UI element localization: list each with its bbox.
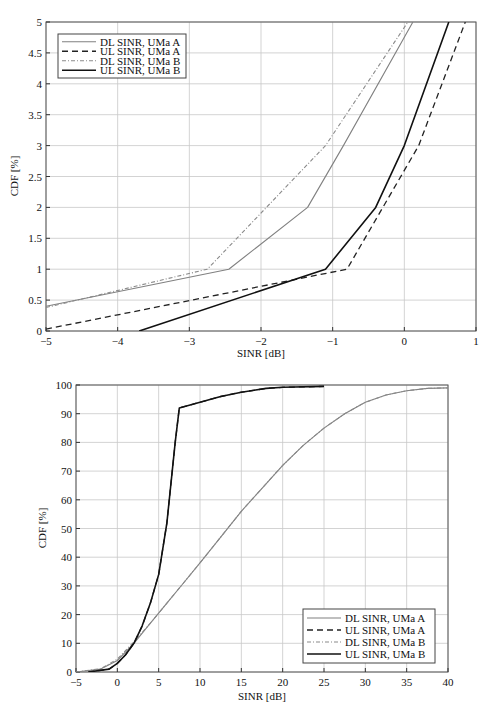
bottom-cdf-chart: −505101520253035400102030405060708090100… — [36, 379, 454, 702]
x-axis-label: SINR [dB] — [237, 347, 285, 359]
x-tick-label: 25 — [319, 676, 331, 688]
legend-label: UL SINR, UMa A — [345, 624, 425, 636]
x-tick-label: 15 — [236, 676, 248, 688]
y-tick-label: 2 — [37, 201, 43, 213]
legend: DL SINR, UMa AUL SINR, UMa ADL SINR, UMa… — [303, 609, 435, 663]
series-line-ul-sinr-uma-b — [88, 386, 324, 672]
y-tick-label: 1 — [37, 263, 43, 275]
y-tick-label: 10 — [61, 637, 73, 649]
y-tick-label: 50 — [61, 523, 73, 535]
x-tick-label: −2 — [255, 335, 267, 347]
x-tick-label: 0 — [402, 335, 408, 347]
y-tick-label: 70 — [61, 465, 73, 477]
y-tick-label: 30 — [61, 580, 73, 592]
y-tick-label: 1.5 — [28, 232, 42, 244]
legend-label: DL SINR, UMa B — [345, 636, 425, 648]
y-axis-label: CDF [%] — [8, 156, 20, 197]
series-line-ul-sinr-uma-a — [88, 386, 324, 672]
y-tick-label: 20 — [61, 609, 73, 621]
y-tick-label: 100 — [56, 379, 73, 391]
y-tick-label: 90 — [61, 408, 73, 420]
y-tick-label: 3.5 — [28, 109, 42, 121]
y-axis-label: CDF [%] — [36, 508, 48, 549]
x-tick-label: −1 — [327, 335, 339, 347]
x-tick-label: 35 — [401, 676, 413, 688]
x-tick-label: 30 — [360, 676, 372, 688]
y-tick-label: 2.5 — [28, 171, 42, 183]
y-tick-label: 4 — [37, 78, 43, 90]
y-tick-label: 5 — [37, 16, 43, 28]
y-tick-label: 4.5 — [28, 47, 42, 59]
y-tick-label: 80 — [61, 436, 73, 448]
y-tick-label: 0 — [67, 666, 73, 678]
x-tick-label: 10 — [195, 676, 207, 688]
figure-canvas: −5−4−3−2−10100.511.522.533.544.55SINR [d… — [0, 0, 486, 714]
x-tick-label: 20 — [277, 676, 289, 688]
y-tick-label: 0 — [37, 325, 43, 337]
y-tick-label: 0.5 — [28, 294, 42, 306]
y-tick-label: 40 — [61, 551, 73, 563]
x-tick-label: 0 — [115, 676, 121, 688]
legend-label: DL SINR, UMa A — [345, 612, 425, 624]
x-axis-label: SINR [dB] — [238, 690, 286, 702]
top-cdf-chart: −5−4−3−2−10100.511.522.533.544.55SINR [d… — [8, 16, 479, 359]
legend: DL SINR, UMa AUL SINR, UMa ADL SINR, UMa… — [58, 34, 186, 78]
x-tick-label: 40 — [443, 676, 455, 688]
y-tick-label: 3 — [37, 140, 43, 152]
x-tick-label: −4 — [112, 335, 124, 347]
x-tick-label: 5 — [156, 676, 162, 688]
legend-label: UL SINR, UMa B — [100, 64, 180, 76]
y-tick-label: 60 — [61, 494, 73, 506]
legend-label: UL SINR, UMa B — [345, 648, 425, 660]
x-tick-label: −3 — [183, 335, 195, 347]
x-tick-label: 1 — [473, 335, 479, 347]
